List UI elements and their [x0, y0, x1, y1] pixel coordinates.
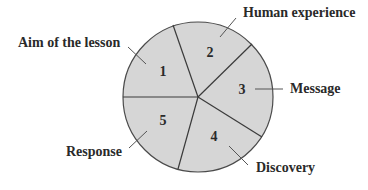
segment-number-1: 1 [160, 65, 167, 79]
label-aim-of-the-lesson: Aim of the lesson [18, 36, 120, 50]
label-human-experience: Human experience [243, 6, 355, 20]
label-discovery: Discovery [256, 161, 315, 175]
segment-number-2: 2 [207, 46, 214, 60]
segment-number-5: 5 [160, 114, 167, 128]
label-response: Response [66, 145, 122, 159]
segment-number-3: 3 [239, 83, 246, 97]
segment-number-4: 4 [211, 130, 218, 144]
label-message: Message [290, 82, 341, 96]
lesson-cycle-diagram: 1 2 3 4 5 Aim of the lesson Human experi… [0, 0, 368, 190]
